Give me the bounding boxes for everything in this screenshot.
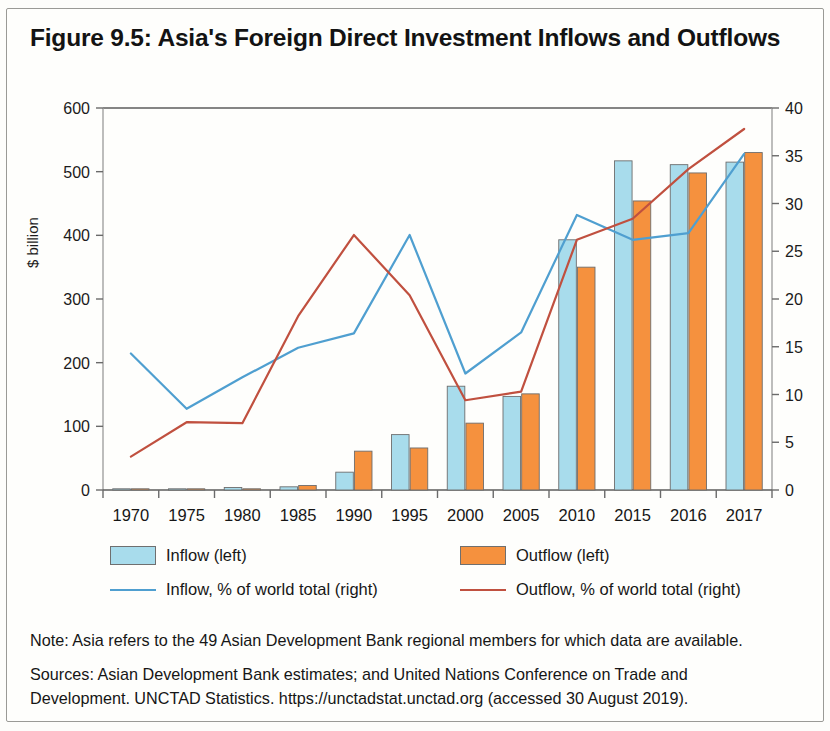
bar bbox=[447, 386, 465, 490]
bar bbox=[299, 486, 317, 490]
bar bbox=[224, 487, 242, 490]
y-axis-tick-label: 600 bbox=[63, 100, 90, 117]
bar bbox=[522, 394, 540, 490]
y2-axis-tick-label: 5 bbox=[785, 434, 794, 451]
bar bbox=[745, 153, 763, 490]
legend-swatch-outflow-line bbox=[460, 589, 506, 591]
y2-axis-tick-label: 20 bbox=[785, 291, 803, 308]
bar bbox=[670, 165, 688, 490]
bar bbox=[243, 489, 261, 490]
y2-axis-tick-label: 30 bbox=[785, 196, 803, 213]
y-axis-tick-label: 500 bbox=[63, 164, 90, 181]
outflow-percent-line bbox=[131, 129, 744, 457]
legend-label-outflow-line: Outflow, % of world total (right) bbox=[516, 580, 741, 599]
note-text: Note: Asia refers to the 49 Asian Develo… bbox=[30, 628, 800, 652]
x-axis-tick-label: 1970 bbox=[113, 506, 150, 524]
bar bbox=[410, 448, 428, 490]
x-axis-tick-label: 1985 bbox=[280, 506, 317, 524]
x-axis-tick-label: 1995 bbox=[391, 506, 428, 524]
bar bbox=[169, 489, 187, 490]
legend-swatch-inflow-line bbox=[110, 589, 156, 591]
bar bbox=[615, 161, 633, 490]
legend-item-inflow-bar: Inflow (left) bbox=[110, 546, 247, 565]
bar bbox=[726, 162, 744, 490]
x-axis-tick-label: 2000 bbox=[447, 506, 484, 524]
bar bbox=[466, 423, 484, 490]
legend-swatch-outflow-bar bbox=[460, 546, 506, 565]
bar bbox=[633, 201, 651, 490]
legend-label-inflow-bar: Inflow (left) bbox=[166, 546, 247, 565]
figure-notes: Note: Asia refers to the 49 Asian Develo… bbox=[30, 628, 800, 710]
y2-axis-tick-label: 10 bbox=[785, 387, 803, 404]
x-axis-tick-label: 1975 bbox=[168, 506, 205, 524]
y-axis-tick-label: 300 bbox=[63, 291, 90, 308]
y2-axis-tick-label: 25 bbox=[785, 243, 803, 260]
chart-legend: Inflow (left) Outflow (left) Inflow, % o… bbox=[110, 546, 770, 608]
y2-axis-tick-label: 0 bbox=[785, 482, 794, 499]
y2-axis-tick-label: 35 bbox=[785, 148, 803, 165]
x-axis-tick-label: 2010 bbox=[559, 506, 596, 524]
legend-swatch-inflow-bar bbox=[110, 546, 156, 565]
y2-axis-tick-label: 40 bbox=[785, 100, 803, 117]
x-axis-tick-label: 2016 bbox=[670, 506, 707, 524]
bar bbox=[187, 489, 205, 490]
chart-plot-area: $ billion 010020030040050060005101520253… bbox=[0, 0, 830, 731]
x-axis-tick-label: 2017 bbox=[726, 506, 763, 524]
bar bbox=[354, 451, 372, 490]
bar bbox=[559, 240, 577, 490]
y-axis-tick-label: 400 bbox=[63, 227, 90, 244]
bar bbox=[336, 472, 354, 490]
bar bbox=[503, 396, 521, 490]
legend-item-outflow-bar: Outflow (left) bbox=[460, 546, 610, 565]
figure-page: Figure 9.5: Asia's Foreign Direct Invest… bbox=[0, 0, 830, 731]
bar bbox=[280, 487, 298, 490]
x-axis-tick-label: 1990 bbox=[336, 506, 373, 524]
bar bbox=[392, 435, 410, 490]
y-axis-tick-label: 0 bbox=[81, 482, 90, 499]
legend-label-inflow-line: Inflow, % of world total (right) bbox=[166, 580, 378, 599]
bar bbox=[131, 489, 149, 490]
y-axis-tick-label: 100 bbox=[63, 418, 90, 435]
inflow-percent-line bbox=[131, 154, 744, 409]
chart-svg: 0100200300400500600051015202530354019701… bbox=[0, 0, 830, 731]
x-axis-tick-label: 1980 bbox=[224, 506, 261, 524]
legend-item-inflow-line: Inflow, % of world total (right) bbox=[110, 580, 378, 599]
x-axis-tick-label: 2015 bbox=[614, 506, 651, 524]
legend-item-outflow-line: Outflow, % of world total (right) bbox=[460, 580, 741, 599]
sources-text-line1: Sources: Asian Development Bank estimate… bbox=[30, 662, 800, 686]
y2-axis-tick-label: 15 bbox=[785, 339, 803, 356]
y-axis-tick-label: 200 bbox=[63, 355, 90, 372]
legend-label-outflow-bar: Outflow (left) bbox=[516, 546, 610, 565]
x-axis-tick-label: 2005 bbox=[503, 506, 540, 524]
bar bbox=[113, 489, 131, 490]
bar bbox=[577, 267, 595, 490]
sources-text-line2: Development. UNCTAD Statistics. https://… bbox=[30, 686, 800, 710]
